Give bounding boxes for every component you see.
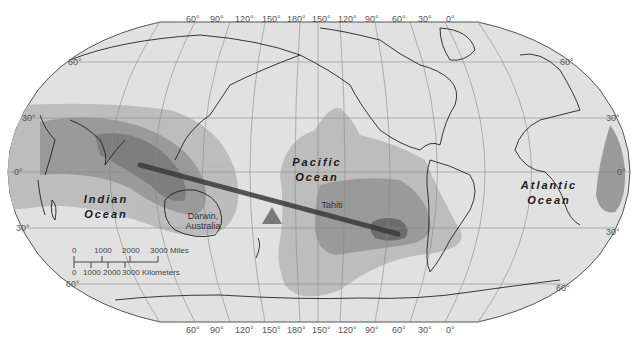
lon-label: 120° — [235, 14, 254, 24]
lon-label: 60° — [392, 14, 406, 24]
lon-label: 60° — [186, 325, 200, 335]
scale-bar-line — [72, 256, 172, 268]
lon-label: 0° — [446, 14, 455, 24]
lat-label: 30° — [16, 223, 30, 233]
lat-label: 30° — [22, 113, 36, 123]
tahiti-label: Tahiti — [318, 200, 346, 210]
lon-label: 60° — [186, 14, 200, 24]
lat-label: 0° — [617, 167, 626, 177]
lat-label: 60° — [556, 283, 570, 293]
indian-ocean-label: Indian Ocean — [76, 192, 136, 222]
lon-label: 150° — [312, 14, 331, 24]
scale-km-tick: 0 — [72, 268, 76, 277]
lon-label: 30° — [418, 325, 432, 335]
scale-km-tick: 2000 — [103, 268, 121, 277]
lon-label: 30° — [418, 14, 432, 24]
scale-bar: 0 1000 2000 3000 Miles 0 1000 2000 3000 … — [72, 246, 222, 286]
lon-label: 150° — [262, 14, 281, 24]
lon-label: 90° — [365, 14, 379, 24]
lon-label: 90° — [210, 14, 224, 24]
scale-miles-tick: 2000 — [122, 246, 140, 255]
lon-label: 120° — [338, 14, 357, 24]
lat-label: 30° — [606, 227, 620, 237]
atlantic-ocean-label: Atlantic Ocean — [514, 178, 584, 208]
ocean-label-line: Indian — [76, 192, 136, 207]
lon-label: 120° — [235, 325, 254, 335]
lon-label: 180° — [287, 325, 306, 335]
lat-label: 60° — [560, 57, 574, 67]
lon-label: 150° — [262, 325, 281, 335]
pacific-ocean-label: Pacific Ocean — [287, 155, 347, 185]
lat-label: 30° — [606, 113, 620, 123]
lon-label: 150° — [312, 325, 331, 335]
lon-label: 180° — [287, 14, 306, 24]
place-label-line: Australia — [176, 221, 230, 231]
lon-label: 90° — [210, 325, 224, 335]
scale-miles-tick: 1000 — [94, 246, 112, 255]
ocean-label-line: Ocean — [287, 170, 347, 185]
ocean-label-line: Pacific — [287, 155, 347, 170]
lon-label: 60° — [392, 325, 406, 335]
ocean-label-line: Ocean — [514, 193, 584, 208]
scale-miles-tick: 3000 Miles — [150, 246, 189, 255]
scale-km-tick: 3000 Kilometers — [122, 268, 180, 277]
darwin-label: Darwin, Australia — [176, 211, 230, 231]
lon-label: 120° — [338, 325, 357, 335]
scale-km-tick: 1000 — [83, 268, 101, 277]
lon-label: 0° — [446, 325, 455, 335]
ocean-label-line: Ocean — [76, 207, 136, 222]
lon-label: 90° — [365, 325, 379, 335]
scale-miles-tick: 0 — [72, 246, 76, 255]
place-label-line: Darwin, — [176, 211, 230, 221]
lat-label: 60° — [68, 57, 82, 67]
ocean-label-line: Atlantic — [514, 178, 584, 193]
lat-label: 0° — [14, 167, 23, 177]
